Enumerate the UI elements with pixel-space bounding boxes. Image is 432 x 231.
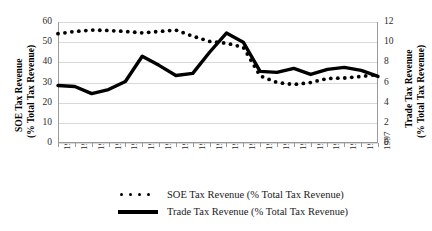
plot-area	[58, 22, 378, 143]
x-tick-mark	[125, 143, 126, 147]
soe-tax-dot	[242, 46, 246, 50]
x-tick-mark	[75, 143, 76, 147]
x-tick-mark	[294, 143, 295, 147]
soe-tax-dot	[77, 29, 81, 33]
soe-tax-dot	[371, 73, 375, 77]
x-tick-mark	[327, 143, 328, 147]
left-tick-40: 40	[28, 56, 52, 66]
x-tick-mark	[193, 143, 194, 147]
soe-tax-dot	[252, 64, 256, 68]
soe-tax-dot	[63, 31, 67, 35]
solid-line-swatch	[118, 210, 158, 214]
soe-tax-dot	[133, 30, 137, 34]
soe-tax-dot	[308, 81, 312, 85]
soe-tax-dot	[261, 75, 265, 79]
right-tick-4: 4	[384, 97, 408, 107]
soe-tax-dot	[98, 28, 102, 32]
soe-tax-dot	[181, 31, 185, 35]
soe-tax-dot	[256, 70, 260, 74]
soe-tax-dot	[84, 29, 88, 33]
soe-tax-dot	[274, 80, 278, 84]
soe-tax-dot	[168, 29, 172, 33]
soe-tax-dot	[322, 77, 326, 81]
soe-tax-dot	[105, 29, 109, 33]
dotted-marker-icon	[118, 189, 158, 201]
right-tick-2: 2	[384, 117, 408, 127]
right-tick-12: 12	[384, 16, 408, 26]
soe-tax-dot	[281, 81, 285, 85]
left-tick-60: 60	[28, 16, 52, 26]
soe-tax-dot	[119, 29, 123, 33]
x-tick-mark	[58, 143, 59, 147]
x-tick-mark	[210, 143, 211, 147]
x-tick-mark	[344, 143, 345, 147]
soe-tax-dot	[175, 28, 179, 32]
soe-tax-dot	[91, 28, 95, 32]
legend-label-soe: SOE Tax Revenue (% Total Tax Revenue)	[167, 189, 344, 200]
x-tick-mark	[260, 143, 261, 147]
soe-tax-dot	[208, 39, 212, 43]
soe-tax-dot	[222, 41, 226, 45]
right-tick-10: 10	[384, 36, 408, 46]
series-plot	[58, 22, 378, 143]
chart-figure: SOE Tax Revenue (% Total Tax Revenue) Tr…	[0, 0, 432, 231]
soe-tax-dot	[161, 29, 165, 33]
left-tick-0: 0	[28, 137, 52, 147]
x-tick-1997: 1997	[382, 131, 392, 150]
soe-tax-dot	[147, 30, 151, 34]
legend-item-trade: Trade Tax Revenue (% Total Tax Revenue)	[0, 203, 432, 220]
right-tick-6: 6	[384, 77, 408, 87]
legend-item-soe: SOE Tax Revenue (% Total Tax Revenue)	[0, 186, 432, 203]
x-tick-mark	[311, 143, 312, 147]
legend-label-trade: Trade Tax Revenue (% Total Tax Revenue)	[167, 206, 348, 217]
left-tick-30: 30	[28, 77, 52, 87]
soe-tax-dot	[336, 76, 340, 80]
x-tick-mark	[277, 143, 278, 147]
x-tick-mark	[226, 143, 227, 147]
soe-tax-dot	[288, 82, 292, 86]
x-tick-mark	[142, 143, 143, 147]
x-tick-mark	[159, 143, 160, 147]
legend-dot	[129, 193, 132, 196]
x-tick-mark	[92, 143, 93, 147]
soe-tax-dot	[249, 58, 253, 62]
chart-legend: SOE Tax Revenue (% Total Tax Revenue) Tr…	[0, 186, 432, 220]
right-tick-8: 8	[384, 56, 408, 66]
soe-tax-dot	[229, 42, 233, 46]
soe-tax-dot	[343, 76, 347, 80]
soe-tax-dot	[329, 76, 333, 80]
soe-tax-dot	[140, 31, 144, 35]
soe-tax-dot	[112, 29, 116, 33]
soe-tax-dot	[357, 75, 361, 79]
series-soe-tax-revenue	[56, 28, 374, 86]
left-tick-10: 10	[28, 117, 52, 127]
solid-line-icon	[118, 206, 158, 218]
soe-tax-dot	[350, 75, 354, 79]
x-tick-mark	[361, 143, 362, 147]
soe-tax-dot	[215, 40, 219, 44]
soe-tax-dot	[188, 33, 192, 37]
left-tick-50: 50	[28, 36, 52, 46]
soe-tax-dot	[235, 44, 239, 48]
right-axis-title-line2: (% Total Tax Revenue)	[416, 45, 427, 138]
soe-tax-dot	[194, 35, 198, 39]
soe-tax-dot	[201, 37, 205, 41]
legend-dot	[138, 193, 141, 196]
left-axis-title-line1: SOE Tax Revenue	[14, 59, 25, 132]
x-tick-mark	[176, 143, 177, 147]
legend-dot	[147, 193, 150, 196]
gridline	[58, 143, 378, 144]
soe-tax-dot	[154, 30, 158, 34]
soe-tax-dot	[70, 30, 74, 34]
soe-tax-dot	[126, 30, 130, 34]
soe-tax-dot	[315, 79, 319, 83]
soe-tax-dot	[301, 81, 305, 85]
legend-dot	[120, 193, 123, 196]
x-tick-mark	[243, 143, 244, 147]
x-tick-mark	[378, 143, 379, 147]
soe-tax-dot	[267, 78, 271, 82]
left-tick-20: 20	[28, 97, 52, 107]
soe-tax-dot	[364, 74, 368, 78]
soe-tax-dot	[245, 52, 249, 56]
x-tick-mark	[109, 143, 110, 147]
